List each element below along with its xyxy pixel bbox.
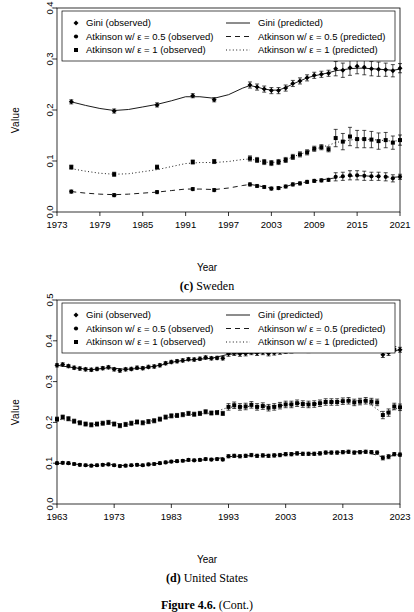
data-point-square — [334, 136, 338, 140]
data-point-circle — [324, 450, 328, 454]
data-point-circle — [341, 174, 345, 178]
data-point-square — [277, 160, 281, 164]
legend-marker-square-icon — [74, 340, 78, 344]
data-point-square — [129, 421, 133, 425]
series-points-square — [55, 398, 402, 428]
y-tick-label: 0.0 — [44, 205, 55, 218]
data-point-diamond — [247, 83, 252, 88]
series-points-diamond — [69, 58, 403, 113]
data-point-circle — [55, 461, 59, 465]
data-point-square — [61, 415, 65, 419]
legend-label-predicted: Gini (predicted) — [258, 17, 323, 28]
data-point-circle — [346, 450, 350, 454]
data-point-circle — [164, 460, 168, 464]
data-point-square — [248, 156, 252, 160]
data-point-square — [324, 400, 328, 404]
data-point-circle — [169, 459, 173, 463]
data-point-circle — [398, 453, 402, 457]
legend-label-predicted: Atkinson w/ ε = 1 (predicted) — [258, 44, 378, 55]
figure-caption-number: Figure 4.6. — [161, 598, 216, 612]
data-point-circle — [269, 186, 273, 190]
data-point-square — [284, 402, 288, 406]
legend-label-predicted: Gini (predicted) — [258, 309, 323, 320]
data-point-square — [55, 417, 59, 421]
data-point-diamond — [255, 85, 260, 90]
x-tick-label: 2023 — [389, 511, 410, 522]
data-point-circle — [244, 454, 248, 458]
data-point-diamond — [262, 87, 267, 92]
legend-label-observed: Gini (observed) — [86, 17, 151, 28]
x-tick-label: 1973 — [104, 511, 125, 522]
panel-caption-united-states: (d) United States — [0, 571, 414, 586]
chart-svg-united-states: 0.00.10.20.30.40.51963197319831993200320… — [0, 292, 414, 542]
panel-caption-prefix-sweden: (c) — [180, 279, 193, 293]
data-point-circle — [186, 458, 190, 462]
legend-marker-circle-icon — [74, 326, 78, 330]
data-point-square — [78, 421, 82, 425]
data-point-square — [95, 422, 99, 426]
data-point-circle — [266, 454, 270, 458]
data-point-circle — [318, 451, 322, 455]
series-points-circle — [55, 450, 402, 468]
data-point-diamond — [347, 65, 352, 70]
data-point-circle — [301, 452, 305, 456]
data-point-circle — [358, 450, 362, 454]
data-point-diamond — [398, 66, 403, 71]
data-point-circle — [112, 193, 116, 197]
data-point-square — [347, 399, 351, 403]
data-point-square — [135, 420, 139, 424]
x-tick-label: 2009 — [304, 219, 325, 230]
data-point-square — [238, 405, 242, 409]
data-point-circle — [329, 450, 333, 454]
panel-caption-text-sweden: Sweden — [196, 279, 234, 293]
data-point-circle — [61, 461, 65, 465]
data-point-circle — [198, 458, 202, 462]
data-point-square — [192, 412, 196, 416]
data-point-circle — [95, 463, 99, 467]
x-axis-label-sweden: Year — [0, 262, 414, 273]
data-point-square — [221, 411, 225, 415]
data-point-square — [141, 421, 145, 425]
plot-area-sweden: 0.00.10.20.30.41973197919851991199720032… — [0, 0, 414, 250]
data-point-square — [398, 405, 402, 409]
data-point-square — [358, 400, 362, 404]
data-point-circle — [83, 463, 87, 467]
data-point-circle — [248, 182, 252, 186]
data-point-square — [369, 138, 373, 142]
data-point-square — [204, 410, 208, 414]
data-point-circle — [118, 464, 122, 468]
data-point-circle — [284, 184, 288, 188]
x-tick-label: 1985 — [132, 219, 153, 230]
data-point-circle — [392, 452, 396, 456]
data-point-square — [341, 140, 345, 144]
data-point-circle — [391, 176, 395, 180]
data-point-square — [66, 417, 70, 421]
data-point-circle — [152, 462, 156, 466]
figure-caption: Figure 4.6. (Cont.) — [0, 598, 414, 612]
data-point-square — [329, 400, 333, 404]
data-point-diamond — [276, 88, 281, 93]
y-tick-label: 0.0 — [44, 497, 55, 510]
data-point-square — [198, 411, 202, 415]
data-point-square — [72, 419, 76, 423]
legend-marker-square-icon — [74, 48, 78, 52]
data-point-circle — [69, 190, 73, 194]
data-point-square — [392, 404, 396, 408]
data-point-square — [118, 424, 122, 428]
data-point-square — [227, 405, 231, 409]
data-point-square — [124, 422, 128, 426]
data-point-circle — [312, 179, 316, 183]
data-point-square — [387, 411, 391, 415]
data-point-circle — [78, 463, 82, 467]
series-line-solid — [71, 68, 400, 110]
x-tick-label: 1991 — [175, 219, 196, 230]
data-point-circle — [192, 458, 196, 462]
y-tick-label: 0.4 — [44, 1, 55, 14]
data-point-square — [89, 423, 93, 427]
data-point-square — [146, 420, 150, 424]
legend-label-observed: Atkinson w/ ε = 0.5 (observed) — [86, 31, 214, 42]
data-point-circle — [72, 462, 76, 466]
chart-panel-united-states: 0.00.10.20.30.40.51963197319831993200320… — [0, 292, 414, 592]
data-point-circle — [204, 457, 208, 461]
data-point-square — [186, 411, 190, 415]
